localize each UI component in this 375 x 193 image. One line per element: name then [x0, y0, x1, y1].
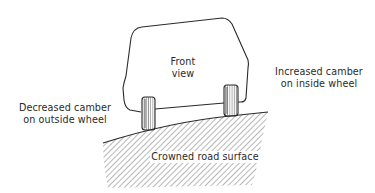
front-view-label-line1: Front — [160, 56, 206, 68]
road-surface — [103, 112, 268, 188]
outside-wheel-label: Decreased camber on outside wheel — [12, 102, 118, 125]
front-view-label-line2: view — [160, 68, 206, 80]
front-view-label: Front view — [160, 56, 206, 79]
inside-wheel-label-line2: on inside wheel — [272, 78, 366, 90]
camber-diagram — [0, 0, 375, 193]
outside-wheel-label-line2: on outside wheel — [12, 114, 118, 126]
road-surface-label-text: Crowned road surface — [150, 151, 259, 163]
axle — [155, 103, 224, 109]
inside-wheel — [224, 85, 238, 116]
road-surface-label: Crowned road surface — [146, 151, 264, 163]
outside-wheel — [142, 97, 155, 130]
inside-wheel-label: Increased camber on inside wheel — [272, 66, 366, 89]
outside-wheel-label-line1: Decreased camber — [12, 102, 118, 114]
inside-wheel-label-line1: Increased camber — [272, 66, 366, 78]
